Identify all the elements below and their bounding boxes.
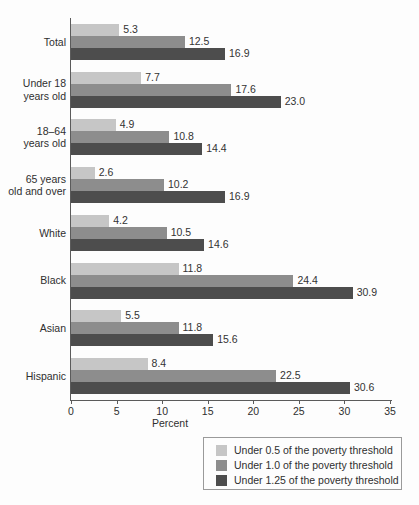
tick-mark xyxy=(253,400,254,404)
bar-group: 4.210.514.6 xyxy=(71,215,390,251)
category-label-line: Asian xyxy=(0,322,66,335)
bar xyxy=(71,334,213,346)
bar xyxy=(71,358,148,370)
category-label-line: 18–64 xyxy=(0,125,66,138)
category-label: Under 18years old xyxy=(0,77,66,102)
bar-value-label: 4.2 xyxy=(109,213,128,228)
category-axis-labels: TotalUnder 18years old18–64years old65 y… xyxy=(0,18,66,400)
tick-mark xyxy=(117,400,118,404)
tick-mark xyxy=(208,400,209,404)
category-label-line: White xyxy=(0,227,66,240)
bar-group: 5.312.516.9 xyxy=(71,24,390,60)
tick-mark xyxy=(299,400,300,404)
category-label-line: 65 years xyxy=(0,173,66,186)
legend-label: Under 1.0 of the poverty threshold xyxy=(234,459,393,471)
bar xyxy=(71,84,231,96)
category-label: Asian xyxy=(0,322,66,335)
bar xyxy=(71,275,293,287)
chart-legend: Under 0.5 of the poverty thresholdUnder … xyxy=(203,437,402,490)
bar-group: 4.910.814.4 xyxy=(71,119,390,155)
bar-value-label: 2.6 xyxy=(95,165,114,180)
bar-value-label: 16.9 xyxy=(225,189,249,204)
bar xyxy=(71,24,119,36)
tick-mark xyxy=(344,400,345,404)
bar xyxy=(71,96,281,108)
legend-item: Under 1.25 of the poverty threshold xyxy=(216,473,401,487)
category-label-line: Total xyxy=(0,36,66,49)
bar xyxy=(71,131,169,143)
bar xyxy=(71,191,225,203)
bar-value-label: 24.4 xyxy=(293,273,317,288)
legend-swatch xyxy=(216,460,227,471)
bar xyxy=(71,143,202,155)
bar-group: 5.511.815.6 xyxy=(71,310,390,346)
bar xyxy=(71,179,164,191)
bar xyxy=(71,119,116,131)
category-label: White xyxy=(0,227,66,240)
bar-value-label: 10.2 xyxy=(164,177,188,192)
tick-label: 35 xyxy=(384,405,396,417)
poverty-threshold-bar-chart: TotalUnder 18years old18–64years old65 y… xyxy=(0,0,419,505)
tick-label: 30 xyxy=(339,405,351,417)
bar xyxy=(71,36,185,48)
bar xyxy=(71,322,179,334)
tick-label: 15 xyxy=(202,405,214,417)
bar-value-label: 22.5 xyxy=(276,368,300,383)
bar-value-label: 15.6 xyxy=(213,332,237,347)
tick-label: 20 xyxy=(247,405,259,417)
category-label: Total xyxy=(0,36,66,49)
bar xyxy=(71,382,350,394)
bar-value-label: 11.8 xyxy=(179,320,203,335)
bar-value-label: 5.5 xyxy=(121,308,140,323)
legend-label: Under 1.25 of the poverty threshold xyxy=(234,474,399,486)
category-label: 18–64years old xyxy=(0,125,66,150)
bar-value-label: 14.4 xyxy=(202,141,226,156)
legend-item: Under 1.0 of the poverty threshold xyxy=(216,458,401,472)
category-label: 65 yearsold and over xyxy=(0,173,66,198)
bar xyxy=(71,167,95,179)
tick-label: 25 xyxy=(293,405,305,417)
bar xyxy=(71,227,167,239)
category-label-line: years old xyxy=(0,90,66,103)
category-label-line: old and over xyxy=(0,185,66,198)
bar xyxy=(71,72,141,84)
bar xyxy=(71,263,179,275)
bar-group: 8.422.530.6 xyxy=(71,358,390,394)
tick-mark xyxy=(71,400,72,404)
bar-group: 11.824.430.9 xyxy=(71,263,390,299)
bar-value-label: 10.8 xyxy=(169,129,193,144)
bar-value-label: 7.7 xyxy=(141,70,160,85)
bar-value-label: 16.9 xyxy=(225,46,249,61)
legend-label: Under 0.5 of the poverty threshold xyxy=(234,444,393,456)
x-axis-title: Percent xyxy=(0,417,340,429)
category-label-line: Under 18 xyxy=(0,77,66,90)
bar xyxy=(71,287,353,299)
bar-group: 7.717.623.0 xyxy=(71,72,390,108)
bar xyxy=(71,239,204,251)
tick-mark xyxy=(162,400,163,404)
bar-value-label: 4.9 xyxy=(116,117,135,132)
category-label: Hispanic xyxy=(0,370,66,383)
bar-value-label: 14.6 xyxy=(204,237,228,252)
bar-value-label: 8.4 xyxy=(148,356,167,371)
bar-value-label: 17.6 xyxy=(231,82,255,97)
bar-value-label: 11.8 xyxy=(179,261,203,276)
category-label: Black xyxy=(0,274,66,287)
bar xyxy=(71,215,109,227)
bar xyxy=(71,310,121,322)
bar xyxy=(71,370,276,382)
bar xyxy=(71,48,225,60)
category-label-line: years old xyxy=(0,137,66,150)
bar-value-label: 5.3 xyxy=(119,22,138,37)
tick-label: 5 xyxy=(114,405,120,417)
legend-swatch xyxy=(216,445,227,456)
legend-swatch xyxy=(216,475,227,486)
tick-mark xyxy=(390,400,391,404)
bar-value-label: 23.0 xyxy=(281,94,305,109)
tick-label: 0 xyxy=(68,405,74,417)
bar-value-label: 30.9 xyxy=(353,285,377,300)
bar-value-label: 12.5 xyxy=(185,34,209,49)
bar-value-label: 30.6 xyxy=(350,380,374,395)
bar-value-label: 10.5 xyxy=(167,225,191,240)
tick-label: 10 xyxy=(156,405,168,417)
